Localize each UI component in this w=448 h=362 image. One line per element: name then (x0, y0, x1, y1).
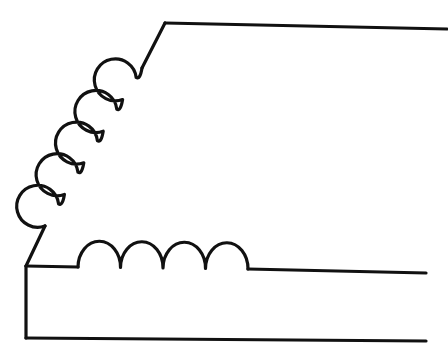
diagram-background (0, 0, 448, 362)
figure-root (0, 0, 448, 362)
middle-lead-left-line (26, 266, 78, 267)
coil-winding-diagram (0, 0, 448, 362)
